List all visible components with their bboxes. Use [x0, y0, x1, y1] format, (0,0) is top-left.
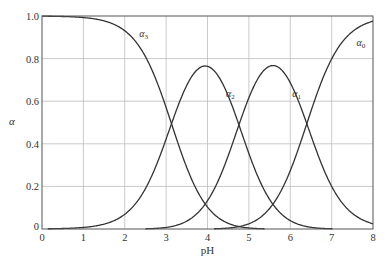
curve-label-alpha0: α0	[356, 37, 365, 50]
x-tick-label: 6	[288, 232, 293, 243]
x-tick-label: 1	[81, 232, 86, 243]
y-tick-label: 0.2	[26, 181, 39, 192]
y-tick-labels: 00.20.40.60.81.0	[26, 11, 40, 232]
x-tick-label: 5	[246, 232, 251, 243]
y-tick-label: 0.6	[26, 96, 39, 107]
curve-label-alpha1: α1	[292, 88, 301, 101]
x-tick-label: 4	[205, 232, 211, 243]
x-tick-labels: 012345678	[39, 232, 375, 243]
x-tick-label: 8	[370, 232, 375, 243]
y-tick-label: 0.4	[26, 139, 40, 150]
curve-alpha0	[214, 21, 373, 229]
curve-label-alpha3: α3	[139, 28, 148, 41]
x-axis-label: pH	[201, 244, 215, 256]
curve-alpha3	[42, 16, 265, 229]
x-tick-label: 7	[329, 232, 334, 243]
x-tick-label: 3	[164, 232, 169, 243]
y-tick-label: 1.0	[26, 11, 39, 22]
curve-alpha2	[48, 66, 333, 229]
x-tick-label: 2	[122, 232, 127, 243]
y-axis-label: α	[9, 115, 15, 127]
y-tick-label: 0	[34, 221, 39, 232]
speciation-chart: 012345678 00.20.40.60.81.0 pH α α3α2α1α0	[0, 0, 388, 269]
x-tick-label: 0	[39, 232, 44, 243]
gridlines	[42, 16, 373, 229]
y-tick-label: 0.8	[26, 54, 39, 65]
curve-label-alpha2: α2	[226, 88, 235, 101]
